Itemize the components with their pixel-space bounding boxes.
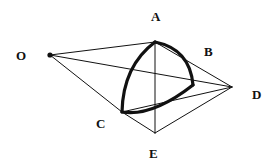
curved-triangle-group [122,42,193,113]
vertex-dot-o [47,52,52,57]
geometry-figure: O A B C D E [0,0,277,168]
vertex-label-d: D [252,88,261,101]
arc-B-C [122,85,193,113]
edge-o-c [50,55,122,112]
arc-A-B [155,42,193,85]
edge-o-a [50,42,155,55]
geometry-diagram-canvas [0,0,277,168]
arc-C-A [122,42,155,112]
vertex-label-b: B [204,45,213,58]
edge-c-d [122,87,232,112]
vertex-label-a: A [151,10,160,23]
vertex-label-c: C [96,117,105,130]
vertex-dot-group [47,52,52,57]
edge-e-d [155,87,232,133]
vertex-label-o: O [16,49,26,62]
vertex-label-e: E [149,147,158,160]
edge-c-e [122,112,155,133]
